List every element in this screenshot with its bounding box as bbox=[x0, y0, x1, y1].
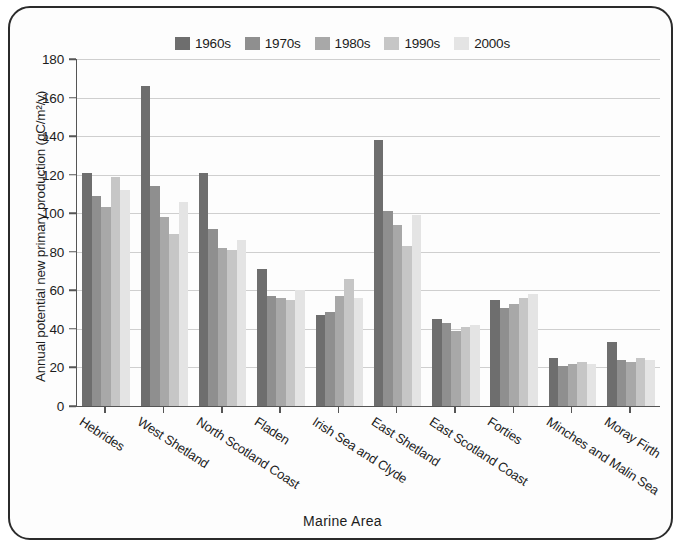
legend-label: 2000s bbox=[474, 36, 510, 51]
bar-2000s-hebrides bbox=[120, 190, 130, 406]
bar-1970s-minches-and-malin-sea bbox=[558, 366, 568, 406]
bar-2000s-north-scotland-coast bbox=[237, 240, 247, 406]
bar-1990s-fladen bbox=[286, 300, 296, 406]
bar-1980s-moray-firth bbox=[626, 362, 636, 406]
chart-legend: 1960s1970s1980s1990s2000s bbox=[10, 36, 673, 51]
bar-1970s-moray-firth bbox=[617, 360, 627, 406]
x-axis-labels: HebridesWest ShetlandNorth Scotland Coas… bbox=[76, 414, 659, 524]
bar-1980s-east-shetland bbox=[393, 225, 403, 406]
bar-group bbox=[252, 59, 310, 406]
bar-group bbox=[602, 59, 660, 406]
bar-1990s-forties bbox=[519, 298, 529, 406]
bar-1960s-moray-firth bbox=[607, 342, 617, 406]
x-axis-ticks bbox=[76, 406, 659, 414]
legend-label: 1960s bbox=[195, 36, 231, 51]
bar-1980s-minches-and-malin-sea bbox=[568, 364, 578, 406]
y-tick-label: 160 bbox=[42, 90, 64, 105]
bar-1980s-hebrides bbox=[101, 207, 111, 406]
bar-1990s-west-shetland bbox=[169, 234, 179, 406]
legend-swatch-2000s bbox=[454, 37, 469, 50]
bar-1970s-fladen bbox=[267, 296, 277, 406]
bar-1990s-moray-firth bbox=[636, 358, 646, 406]
x-tick-mark bbox=[163, 406, 165, 413]
y-tick-label: 180 bbox=[42, 52, 64, 67]
bar-group bbox=[485, 59, 543, 406]
y-tick-label: 140 bbox=[42, 129, 64, 144]
y-axis: Annual potential new primary production … bbox=[10, 59, 76, 406]
legend-item-1960s: 1960s bbox=[175, 36, 231, 51]
y-tick-label: 80 bbox=[49, 244, 64, 259]
bar-1970s-west-shetland bbox=[150, 186, 160, 406]
y-tick-label: 120 bbox=[42, 167, 64, 182]
legend-swatch-1980s bbox=[315, 37, 330, 50]
legend-label: 1980s bbox=[335, 36, 371, 51]
x-tick-label: East Scotland Coast bbox=[427, 414, 531, 489]
bar-2000s-west-shetland bbox=[179, 202, 189, 406]
x-tick-label: Fladen bbox=[252, 414, 293, 448]
bars-layer bbox=[77, 59, 660, 406]
y-tick-mark bbox=[69, 290, 76, 292]
bar-group bbox=[77, 59, 135, 406]
y-tick-mark bbox=[69, 58, 76, 60]
bar-1960s-irish-sea-and-clyde bbox=[316, 315, 326, 406]
legend-item-2000s: 2000s bbox=[454, 36, 510, 51]
bar-group bbox=[427, 59, 485, 406]
bar-1990s-hebrides bbox=[111, 177, 121, 406]
x-tick-mark bbox=[571, 406, 573, 413]
y-tick-label: 20 bbox=[49, 360, 64, 375]
bar-2000s-east-shetland bbox=[412, 215, 422, 406]
y-tick-label: 40 bbox=[49, 321, 64, 336]
bar-1990s-minches-and-malin-sea bbox=[577, 362, 587, 406]
y-tick-label: 60 bbox=[49, 283, 64, 298]
bar-2000s-forties bbox=[528, 294, 538, 406]
x-tick-mark bbox=[513, 406, 515, 413]
legend-item-1990s: 1990s bbox=[384, 36, 440, 51]
x-tick-mark bbox=[338, 406, 340, 413]
bar-1970s-forties bbox=[500, 308, 510, 406]
bar-1990s-east-shetland bbox=[402, 246, 412, 406]
bar-1970s-east-scotland-coast bbox=[442, 323, 452, 406]
bar-1990s-north-scotland-coast bbox=[227, 250, 237, 406]
bar-1980s-north-scotland-coast bbox=[218, 248, 228, 406]
y-tick-mark bbox=[69, 328, 76, 330]
y-tick-mark bbox=[69, 174, 76, 176]
bar-1960s-west-shetland bbox=[141, 86, 151, 406]
figure-frame: 1960s1970s1980s1990s2000s Annual potenti… bbox=[8, 6, 673, 540]
bar-1960s-hebrides bbox=[82, 173, 92, 406]
bar-1990s-irish-sea-and-clyde bbox=[344, 279, 354, 406]
x-tick-mark bbox=[396, 406, 398, 413]
x-tick-label: Hebrides bbox=[77, 414, 127, 454]
x-tick-label: Irish Sea and Clyde bbox=[310, 414, 410, 486]
bar-1960s-east-shetland bbox=[374, 140, 384, 406]
bar-1960s-fladen bbox=[257, 269, 267, 406]
bar-2000s-minches-and-malin-sea bbox=[587, 364, 597, 406]
y-tick-label: 100 bbox=[42, 206, 64, 221]
y-tick-mark bbox=[69, 367, 76, 369]
x-tick-label: Forties bbox=[485, 414, 525, 447]
bar-1970s-east-shetland bbox=[383, 211, 393, 406]
legend-swatch-1960s bbox=[175, 37, 190, 50]
x-tick-label: North Scotland Coast bbox=[194, 414, 302, 492]
bar-1980s-west-shetland bbox=[160, 217, 170, 406]
bar-1960s-minches-and-malin-sea bbox=[549, 358, 559, 406]
y-tick-mark bbox=[69, 97, 76, 99]
bar-1980s-east-scotland-coast bbox=[451, 331, 461, 406]
bar-group bbox=[543, 59, 601, 406]
bar-1960s-east-scotland-coast bbox=[432, 319, 442, 406]
x-axis-title: Marine Area bbox=[10, 513, 673, 529]
legend-swatch-1990s bbox=[384, 37, 399, 50]
legend-label: 1970s bbox=[265, 36, 301, 51]
bar-group bbox=[368, 59, 426, 406]
legend-swatch-1970s bbox=[245, 37, 260, 50]
bar-2000s-moray-firth bbox=[645, 360, 655, 406]
y-tick-mark bbox=[69, 405, 76, 407]
bar-group bbox=[135, 59, 193, 406]
bar-1990s-east-scotland-coast bbox=[461, 327, 471, 406]
bar-2000s-irish-sea-and-clyde bbox=[354, 298, 364, 406]
bar-1960s-north-scotland-coast bbox=[199, 173, 209, 406]
x-tick-mark bbox=[104, 406, 106, 413]
bar-1960s-forties bbox=[490, 300, 500, 406]
bar-group bbox=[310, 59, 368, 406]
bar-1970s-hebrides bbox=[92, 196, 102, 406]
bar-1970s-north-scotland-coast bbox=[208, 229, 218, 406]
